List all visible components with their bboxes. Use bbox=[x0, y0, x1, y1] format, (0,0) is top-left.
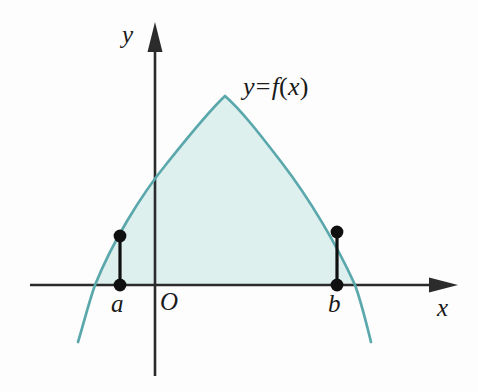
lower-limit-label-a: a bbox=[111, 291, 124, 316]
figure-canvas: y x O a b y=f(x) bbox=[0, 0, 478, 392]
curve-eq-close-paren: ) bbox=[300, 72, 309, 101]
x-axis-label: x bbox=[437, 295, 448, 320]
point-marker-a-on-curve bbox=[114, 230, 127, 243]
curve-eq-equals: = bbox=[256, 72, 271, 101]
figure-graphic bbox=[0, 0, 478, 392]
y-axis-arrowhead-icon bbox=[148, 22, 163, 52]
curve-eq-open-paren: ( bbox=[279, 72, 288, 101]
x-axis-arrowhead-icon bbox=[429, 278, 458, 293]
y-axis-label: y bbox=[122, 22, 133, 47]
curve-eq-arg: x bbox=[288, 72, 300, 101]
curve-equation-label: y=f(x) bbox=[243, 74, 309, 100]
origin-label: O bbox=[160, 289, 178, 314]
upper-limit-label-b: b bbox=[328, 291, 341, 316]
curve-eq-lhs: y bbox=[243, 72, 255, 101]
curve-eq-fn: f bbox=[272, 72, 279, 101]
point-marker-b-on-curve bbox=[331, 226, 344, 239]
shaded-area-region bbox=[95, 96, 355, 285]
